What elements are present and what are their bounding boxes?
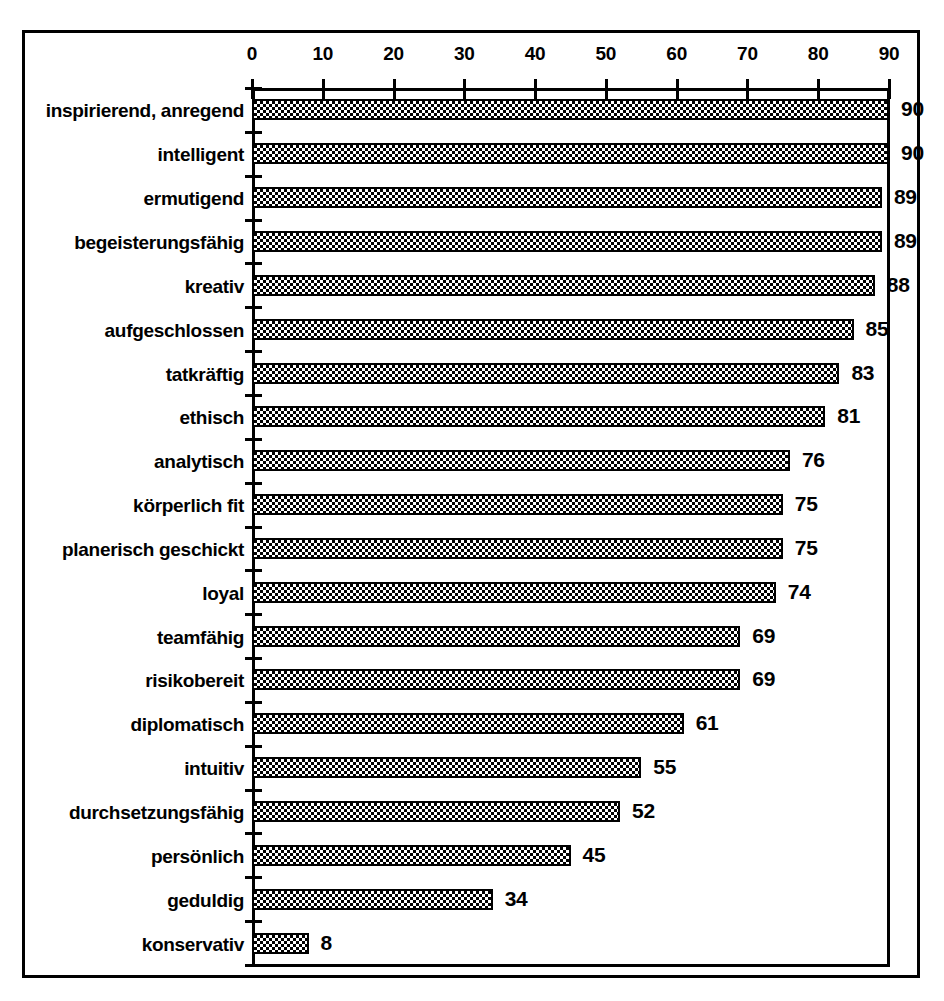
category-label-row: inspirierend, anregend — [8, 100, 244, 124]
category-label-row: durchsetzungsfähig — [8, 802, 244, 826]
category-label-row: intelligent — [8, 144, 244, 168]
y-axis-tick — [245, 482, 262, 485]
x-axis-tick — [817, 79, 820, 99]
x-axis-tick — [746, 79, 749, 99]
category-label: loyal — [14, 583, 244, 605]
y-axis-tick — [245, 789, 262, 792]
category-label: teamfähig — [14, 627, 244, 649]
value-label: 75 — [795, 492, 818, 516]
value-label: 90 — [901, 141, 924, 165]
y-axis-tick — [245, 701, 262, 704]
category-label: begeisterungsfähig — [14, 232, 244, 254]
category-label: aufgeschlossen — [14, 320, 244, 342]
category-label-row: teamfähig — [8, 627, 244, 651]
x-axis-tick-label: 90 — [869, 43, 909, 65]
category-label: geduldig — [14, 890, 244, 912]
category-label: inspirierend, anregend — [14, 100, 244, 122]
x-axis-tick — [463, 79, 466, 99]
plot-right-border — [887, 88, 890, 967]
x-axis-tick — [605, 79, 608, 99]
bar — [252, 889, 493, 910]
bar — [252, 363, 839, 384]
plot-area: 0102030405060708090 inspirierend, anrege… — [0, 0, 944, 1001]
value-label: 34 — [505, 887, 528, 911]
category-label: ethisch — [14, 407, 244, 429]
bar — [252, 319, 854, 340]
value-label: 76 — [802, 448, 825, 472]
bar — [252, 669, 740, 690]
y-axis-tick — [245, 920, 262, 923]
x-axis-tick — [393, 79, 396, 99]
value-label: 8 — [321, 931, 332, 955]
value-label: 81 — [837, 404, 860, 428]
x-axis-tick-label: 10 — [303, 43, 343, 65]
y-axis-tick — [245, 175, 262, 178]
value-label: 69 — [752, 624, 775, 648]
value-label: 52 — [632, 799, 655, 823]
y-axis-tick — [245, 350, 262, 353]
bar — [252, 187, 882, 208]
category-label: kreativ — [14, 276, 244, 298]
value-label: 89 — [894, 185, 917, 209]
category-label-row: konservativ — [8, 934, 244, 958]
x-axis-tick-label: 40 — [515, 43, 555, 65]
bar — [252, 143, 889, 164]
y-axis-tick — [245, 87, 262, 90]
y-axis-tick — [245, 876, 262, 879]
category-label: analytisch — [14, 451, 244, 473]
chart-root: 0102030405060708090 inspirierend, anrege… — [0, 0, 944, 1001]
value-label: 90 — [901, 97, 924, 121]
y-axis-tick — [245, 569, 262, 572]
x-axis-tick — [888, 79, 891, 99]
bar — [252, 845, 571, 866]
y-axis-tick — [245, 262, 262, 265]
y-axis-tick — [245, 657, 262, 660]
x-axis-tick-label: 30 — [444, 43, 484, 65]
bar — [252, 231, 882, 252]
category-label: tatkräftig — [14, 364, 244, 386]
category-label-row: kreativ — [8, 276, 244, 300]
category-label: persönlich — [14, 846, 244, 868]
bar — [252, 933, 309, 954]
category-label-row: risikobereit — [8, 670, 244, 694]
x-axis-bottom-line — [252, 964, 890, 967]
bar — [252, 757, 641, 778]
value-label: 85 — [866, 317, 889, 341]
category-label-row: begeisterungsfähig — [8, 232, 244, 256]
x-axis-tick-label: 60 — [657, 43, 697, 65]
category-label: intuitiv — [14, 758, 244, 780]
x-axis-tick-label: 50 — [586, 43, 626, 65]
y-axis-tick — [245, 526, 262, 529]
x-axis-tick — [322, 79, 325, 99]
category-label-row: körperlich fit — [8, 495, 244, 519]
x-axis-top-line — [252, 88, 890, 91]
bar — [252, 99, 889, 120]
y-axis-tick — [245, 131, 262, 134]
category-label: durchsetzungsfähig — [14, 802, 244, 824]
category-label: intelligent — [14, 144, 244, 166]
value-label: 74 — [788, 580, 811, 604]
category-label: körperlich fit — [14, 495, 244, 517]
y-axis-tick — [245, 613, 262, 616]
bar — [252, 494, 783, 515]
x-axis-tick — [676, 79, 679, 99]
y-axis-tick — [245, 964, 262, 967]
bar — [252, 582, 776, 603]
category-label-row: tatkräftig — [8, 364, 244, 388]
category-label: ermutigend — [14, 188, 244, 210]
bar — [252, 450, 790, 471]
value-label: 45 — [583, 843, 606, 867]
x-axis-tick — [534, 79, 537, 99]
category-label-row: planerisch geschickt — [8, 539, 244, 563]
value-label: 83 — [851, 361, 874, 385]
bar — [252, 713, 684, 734]
category-label-row: ethisch — [8, 407, 244, 431]
category-label: risikobereit — [14, 670, 244, 692]
bar — [252, 406, 825, 427]
y-axis-tick — [245, 438, 262, 441]
value-label: 75 — [795, 536, 818, 560]
category-label-row: intuitiv — [8, 758, 244, 782]
y-axis-tick — [245, 832, 262, 835]
bar — [252, 801, 620, 822]
value-label: 88 — [887, 273, 910, 297]
